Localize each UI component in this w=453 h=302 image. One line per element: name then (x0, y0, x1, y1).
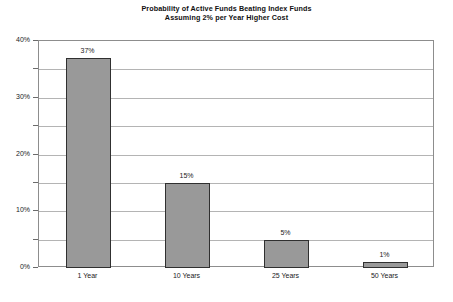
plot-area (38, 40, 434, 267)
chart-title: Probability of Active Funds Beating Inde… (0, 4, 453, 22)
chart-title-line-1: Probability of Active Funds Beating Inde… (0, 4, 453, 13)
x-axis-label: 1 Year (48, 272, 128, 280)
y-axis-label: 0% (0, 263, 30, 271)
bar (165, 183, 210, 268)
y-axis-label: 10% (0, 206, 30, 214)
bar-value-label: 15% (157, 172, 217, 180)
y-axis-label: 30% (0, 93, 30, 101)
bar-value-label: 1% (355, 251, 415, 259)
bar-value-label: 5% (256, 229, 316, 237)
x-axis-label: 50 Years (345, 272, 425, 280)
bar (264, 240, 309, 268)
chart-container: Probability of Active Funds Beating Inde… (0, 0, 453, 302)
y-axis-label: 20% (0, 150, 30, 158)
bar-value-label: 37% (58, 47, 118, 55)
y-axis-label: 40% (0, 36, 30, 44)
bar (363, 262, 408, 268)
x-axis-label: 10 Years (147, 272, 227, 280)
chart-title-line-2: Assuming 2% per Year Higher Cost (0, 13, 453, 22)
y-axis-tick (33, 267, 38, 268)
x-axis-label: 25 Years (246, 272, 326, 280)
bar (66, 58, 111, 268)
